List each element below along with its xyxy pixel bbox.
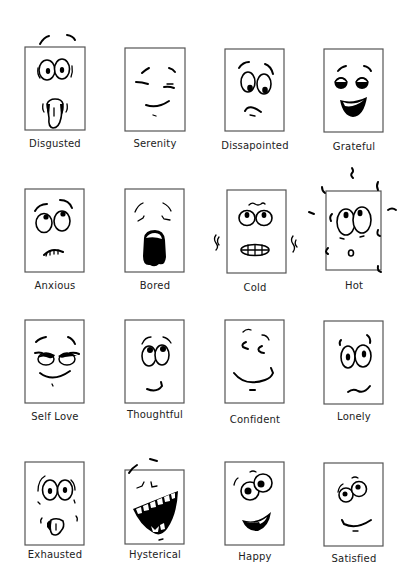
emotion-label-disgusted: Disgusted (5, 138, 105, 149)
emotion-label-hysterical: Hysterical (105, 549, 205, 560)
emotion-label-happy: Happy (205, 551, 305, 562)
emotion-label-thoughtful: Thoughtful (105, 409, 205, 420)
emotion-label-hot: Hot (304, 280, 404, 291)
cold-face-icon (205, 160, 305, 300)
emotion-label-serenity: Serenity (105, 138, 205, 149)
hysterical-face-icon (105, 440, 205, 582)
emotion-label-grateful: Grateful (304, 141, 404, 152)
anxious-face-icon (5, 160, 105, 300)
emotion-label-dissapointed: Dissapointed (205, 140, 305, 151)
dissapointed-face-icon (205, 0, 305, 140)
serenity-face-icon (105, 0, 205, 140)
hot-face-icon (304, 160, 404, 300)
emotion-label-anxious: Anxious (5, 280, 105, 291)
emotion-label-satisfied: Satisfied (304, 553, 404, 564)
emotion-label-lonely: Lonely (304, 411, 404, 422)
emotion-label-cold: Cold (205, 282, 305, 293)
exhausted-face-icon (5, 440, 105, 582)
emotion-label-bored: Bored (105, 280, 205, 291)
emotion-label-self-love: Self Love (5, 411, 105, 422)
bored-face-icon (105, 160, 205, 300)
emotion-label-confident: Confident (205, 414, 305, 425)
emotion-label-exhausted: Exhausted (5, 549, 105, 560)
disgusted-face-icon (5, 0, 105, 140)
grateful-face-icon (304, 0, 404, 140)
